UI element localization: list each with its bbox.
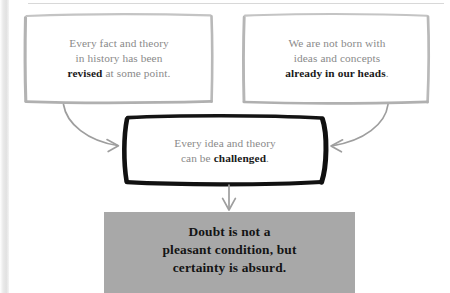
diagram-page: Every fact and theory in history has bee…: [0, 0, 450, 293]
edge-left-to-inference: [64, 105, 119, 152]
premise-right-emphasis: already in our heads: [285, 67, 385, 79]
premise-left-line-1: Every fact and theory: [28, 36, 210, 51]
premise-left-text: Every fact and theory in history has bee…: [28, 36, 210, 81]
inference-line-2-rest: .: [266, 152, 269, 164]
premise-right-line-1: We are not born with: [247, 36, 427, 51]
premise-right-line-3-rest: .: [386, 67, 389, 79]
inference-text: Every idea and theory can be challenged.: [132, 136, 318, 166]
conclusion-line-3: certainty is absurd.: [104, 259, 355, 277]
premise-left-emphasis: revised: [67, 67, 102, 79]
inference-line-1: Every idea and theory: [132, 136, 318, 151]
inference-emphasis: challenged: [214, 152, 266, 164]
inference-line-2: can be challenged.: [132, 151, 318, 166]
premise-left-line-3: revised at some point.: [28, 66, 210, 81]
conclusion-line-1: Doubt is not a: [104, 223, 355, 241]
premise-left-line-2: in history has been: [28, 51, 210, 66]
inference-line-2-pre: can be: [181, 152, 214, 164]
conclusion-line-2: pleasant condition, but: [104, 241, 355, 259]
edge-inference-to-conclusion: [223, 185, 236, 210]
edge-right-to-inference: [331, 105, 388, 152]
conclusion-text: Doubt is not a pleasant condition, but c…: [104, 223, 355, 278]
premise-right-line-2: ideas and concepts: [247, 51, 427, 66]
premise-right-text: We are not born with ideas and concepts …: [247, 36, 427, 81]
premise-left-line-3-rest: at some point.: [102, 67, 170, 79]
premise-right-line-3: already in our heads.: [247, 66, 427, 81]
